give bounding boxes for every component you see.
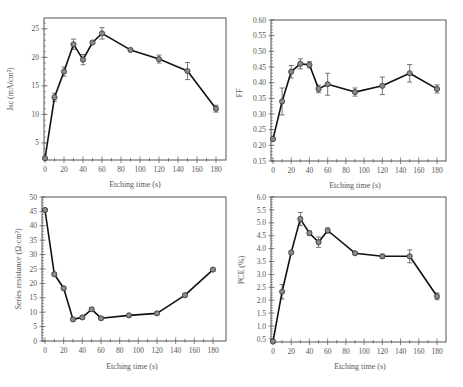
data-point-marker bbox=[270, 339, 275, 344]
x-tick-label: 40 bbox=[306, 347, 314, 356]
data-point-marker bbox=[316, 240, 321, 245]
data-point-marker bbox=[325, 228, 330, 233]
data-point-marker bbox=[70, 317, 75, 322]
y-tick-label: 6.0 bbox=[257, 193, 267, 202]
x-tick-label: 180 bbox=[210, 165, 222, 174]
y-tick-label: 0.50 bbox=[253, 47, 266, 56]
data-point-marker bbox=[80, 315, 85, 320]
ff-x-axis-label: Etching time (s) bbox=[329, 181, 381, 190]
x-tick-label: 0 bbox=[271, 166, 275, 175]
data-point-marker bbox=[182, 293, 187, 298]
y-tick-label: 0.40 bbox=[253, 78, 266, 87]
y-tick-label: 20 bbox=[30, 279, 38, 288]
x-tick-label: 80 bbox=[117, 165, 125, 174]
x-tick-label: 100 bbox=[358, 347, 370, 356]
x-tick-label: 20 bbox=[287, 166, 295, 175]
y-tick-label: 10 bbox=[30, 308, 38, 317]
data-point-marker bbox=[407, 71, 412, 76]
x-tick-label: 160 bbox=[189, 346, 201, 355]
y-tick-label: 3.5 bbox=[257, 257, 267, 266]
y-tick-label: 15 bbox=[32, 81, 40, 90]
x-tick-label: 80 bbox=[116, 346, 124, 355]
x-tick-label: 180 bbox=[431, 347, 443, 356]
ff-data-line bbox=[273, 64, 437, 139]
rs-y-axis-label: Series resistance (Ω·cm²) bbox=[14, 228, 23, 310]
data-point-marker bbox=[270, 136, 275, 141]
x-tick-label: 120 bbox=[377, 347, 389, 356]
y-tick-label: 5 bbox=[33, 322, 37, 331]
x-tick-label: 20 bbox=[287, 347, 295, 356]
data-point-marker bbox=[280, 289, 285, 294]
data-point-marker bbox=[98, 316, 103, 321]
y-tick-label: 5 bbox=[35, 138, 39, 147]
data-point-marker bbox=[280, 99, 285, 104]
x-tick-label: 160 bbox=[413, 166, 425, 175]
x-tick-label: 120 bbox=[377, 166, 389, 175]
y-tick-label: 0.20 bbox=[253, 141, 266, 150]
data-point-marker bbox=[289, 69, 294, 74]
x-tick-label: 80 bbox=[342, 347, 350, 356]
y-tick-label: 0.35 bbox=[253, 94, 266, 103]
data-point-marker bbox=[154, 311, 159, 316]
x-tick-label: 60 bbox=[324, 347, 332, 356]
x-tick-label: 0 bbox=[271, 347, 275, 356]
data-point-marker bbox=[307, 231, 312, 236]
series-resistance-plot: 0204060801001201401601800510152025303540… bbox=[30, 193, 227, 355]
data-point-marker bbox=[99, 31, 104, 36]
y-tick-label: 0.60 bbox=[253, 16, 266, 25]
y-tick-label: 5.0 bbox=[257, 218, 267, 227]
y-tick-label: 1.0 bbox=[257, 322, 267, 331]
data-point-marker bbox=[61, 69, 66, 74]
pce-plot-frame bbox=[271, 197, 446, 342]
x-tick-label: 120 bbox=[153, 165, 165, 174]
y-tick-label: 25 bbox=[30, 265, 38, 274]
y-tick-label: 4.5 bbox=[257, 231, 267, 240]
data-point-marker bbox=[434, 294, 439, 299]
y-tick-label: 0.25 bbox=[253, 125, 266, 134]
x-tick-label: 60 bbox=[324, 166, 332, 175]
x-tick-label: 180 bbox=[431, 166, 443, 175]
figure-canvas: 020406080100120140160180510152025 020406… bbox=[0, 0, 463, 387]
data-point-marker bbox=[61, 286, 66, 291]
data-point-marker bbox=[71, 42, 76, 47]
y-tick-label: 0.55 bbox=[253, 31, 266, 40]
data-point-marker bbox=[89, 307, 94, 312]
x-tick-label: 100 bbox=[358, 166, 370, 175]
data-point-marker bbox=[352, 251, 357, 256]
data-point-marker bbox=[128, 47, 133, 52]
x-tick-label: 100 bbox=[134, 165, 146, 174]
pce-data-line bbox=[273, 219, 437, 342]
ff-plot: 0204060801001201401601800.150.200.250.30… bbox=[253, 16, 446, 175]
y-tick-label: 25 bbox=[32, 24, 40, 33]
y-tick-label: 30 bbox=[30, 250, 38, 259]
jsc-plot: 020406080100120140160180510152025 bbox=[32, 18, 227, 174]
y-tick-label: 3.0 bbox=[257, 270, 267, 279]
x-tick-label: 0 bbox=[43, 165, 47, 174]
data-point-marker bbox=[90, 40, 95, 45]
data-point-marker bbox=[307, 62, 312, 67]
x-tick-label: 160 bbox=[191, 165, 203, 174]
rs-data-line bbox=[45, 210, 213, 319]
x-tick-label: 20 bbox=[60, 165, 68, 174]
pce-x-axis-label: Etching time (s) bbox=[334, 362, 386, 371]
data-point-marker bbox=[42, 207, 47, 212]
x-tick-label: 40 bbox=[306, 166, 314, 175]
x-tick-label: 100 bbox=[133, 346, 145, 355]
y-tick-label: 15 bbox=[30, 293, 38, 302]
x-tick-label: 120 bbox=[151, 346, 163, 355]
x-tick-label: 160 bbox=[413, 347, 425, 356]
x-tick-label: 140 bbox=[172, 165, 184, 174]
y-tick-label: 0.15 bbox=[253, 157, 266, 166]
x-tick-label: 60 bbox=[97, 346, 105, 355]
x-tick-label: 40 bbox=[79, 346, 87, 355]
x-tick-label: 140 bbox=[170, 346, 182, 355]
data-point-marker bbox=[352, 89, 357, 94]
jsc-x-axis-label: Etching time (s) bbox=[109, 180, 161, 189]
jsc-y-axis-label: Jsc (mA/cm²) bbox=[6, 67, 15, 111]
data-point-marker bbox=[42, 156, 47, 161]
y-tick-label: 35 bbox=[30, 236, 38, 245]
y-tick-label: 5.5 bbox=[257, 206, 267, 215]
y-tick-label: 10 bbox=[32, 110, 40, 119]
y-tick-label: 2.5 bbox=[257, 283, 267, 292]
data-point-marker bbox=[52, 272, 57, 277]
